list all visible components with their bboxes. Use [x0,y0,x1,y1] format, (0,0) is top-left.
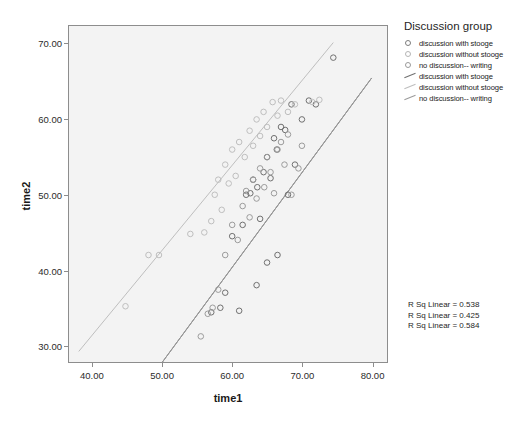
legend-title: Discussion group [404,20,520,32]
legend-item[interactable]: discussion without stooge [404,82,520,93]
data-point [261,109,267,115]
data-point [275,113,281,119]
data-point [261,184,267,190]
legend-circle-icon [404,38,416,48]
data-point [229,222,235,228]
data-point [257,216,263,222]
data-point [247,215,253,221]
legend-item-label: discussion with stooge [419,72,493,81]
data-point [212,192,218,198]
data-point [278,139,284,145]
data-point [240,222,246,228]
data-point [156,252,162,258]
data-point [229,147,235,153]
data-point [254,282,260,288]
y-tick-label: 40.00 [38,265,62,276]
data-point [257,133,263,139]
r-square-annotations: R Sq Linear = 0.538R Sq Linear = 0.425R … [408,300,518,332]
r-square-label: R Sq Linear = 0.425 [408,311,518,322]
legend-item-label: discussion with stooge [419,39,493,48]
data-point [242,154,248,160]
data-point [202,230,208,236]
data-point [222,290,228,296]
data-point [278,98,284,104]
data-point [282,162,288,168]
data-point [271,135,277,141]
data-point [306,98,312,104]
data-point [285,109,291,115]
data-point [208,218,214,224]
legend-line-icon [404,71,416,81]
data-point [240,203,246,209]
x-tick-label: 80.00 [361,370,385,381]
line-icon [404,84,416,90]
legend-item-label: no discussion-- writing [419,61,492,70]
data-point [271,190,277,196]
data-point [299,143,305,149]
legend-item[interactable]: discussion with stooge [404,38,520,49]
data-point [268,175,274,181]
data-point [255,184,261,190]
legend-item[interactable]: no discussion-- writing [404,60,520,71]
data-point [188,231,194,237]
data-point [146,252,152,258]
fit-line [162,78,371,362]
data-point [235,237,241,243]
data-point [198,334,204,340]
x-tick-mark [92,363,93,367]
plot-area [68,25,388,363]
data-point [236,308,242,314]
r-square-label: R Sq Linear = 0.538 [408,300,518,311]
y-tick-label: 50.00 [38,189,62,200]
x-tick-mark [162,363,163,367]
data-point [254,196,260,202]
x-tick-label: 70.00 [290,370,314,381]
data-point [289,192,295,198]
x-axis-title: time1 [214,392,243,404]
data-point [236,139,242,145]
data-point [222,252,228,258]
legend-item[interactable]: no discussion-- writing [404,93,520,104]
data-point [268,169,274,175]
data-point [250,143,256,149]
data-point [218,305,224,311]
x-tick-label: 60.00 [220,370,244,381]
y-tick-label: 60.00 [38,113,62,124]
legend-entries: discussion with stoogediscussion without… [404,38,520,104]
data-point [254,117,260,123]
data-point [233,173,239,179]
data-point [285,132,291,138]
legend-item-label: discussion without stooge [419,50,503,59]
legend-item-label: no discussion-- writing [419,94,492,103]
data-point [264,154,270,160]
data-point [229,233,235,239]
scatter-plot-figure: time2 time1 30.0040.0050.0060.0070.00 40… [0,0,520,422]
legend-circle-icon [404,60,416,70]
x-tick-mark [232,363,233,367]
legend-item[interactable]: discussion with stooge [404,71,520,82]
data-point [250,177,256,183]
data-point [226,181,232,187]
line-icon [404,95,416,101]
y-tick-label: 70.00 [38,38,62,49]
data-point [205,311,211,317]
data-point [296,166,302,172]
data-point [331,55,337,61]
circle-icon [405,40,411,46]
legend-item-label: discussion without stooge [419,83,503,92]
data-point [219,207,225,213]
legend-circle-icon [404,49,416,59]
data-point [264,124,270,130]
data-point [123,303,129,309]
data-point [264,260,270,266]
y-axis-title: time2 [20,182,32,211]
x-tick-label: 40.00 [80,370,104,381]
data-point [292,102,298,108]
circle-icon [405,51,411,57]
legend: Discussion group discussion with stooged… [404,20,520,104]
data-point [257,166,263,172]
legend-item[interactable]: discussion without stooge [404,49,520,60]
fit-line [79,43,334,352]
legend-line-icon [404,82,416,92]
data-point [222,162,228,168]
